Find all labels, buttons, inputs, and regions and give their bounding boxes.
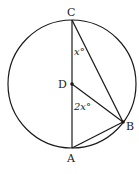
- label-a: A: [66, 152, 76, 165]
- geometry-diagram: C D B A x° 2x°: [0, 0, 139, 174]
- segment-ab: [72, 122, 123, 148]
- label-d: D: [58, 78, 67, 91]
- point-d-dot: [70, 82, 74, 86]
- point-b-dot: [121, 120, 125, 124]
- label-b: B: [126, 120, 134, 133]
- angle-label-d: 2x°: [73, 101, 91, 112]
- label-c: C: [67, 6, 75, 19]
- angle-label-c: x°: [74, 46, 85, 57]
